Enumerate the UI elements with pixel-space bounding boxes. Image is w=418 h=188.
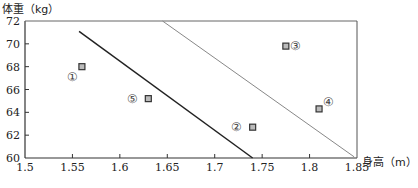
y-tick-label: 64 [6,106,20,119]
trend-lines [79,21,354,158]
y-tick-label: 68 [6,61,20,74]
data-point-label: ⑤ [127,92,138,106]
data-point-label: ② [231,120,242,134]
x-axis: 1.51.551.61.651.71.751.81.85 [16,154,369,174]
x-tick-label: 1.55 [60,161,85,174]
data-point [316,106,322,112]
y-tick-label: 72 [6,15,20,28]
y-tick-label: 70 [6,38,20,51]
data-point [145,96,151,102]
y-axis-title: 体重（kg） [2,2,59,16]
dark-line [79,31,253,158]
y-tick-label: 62 [6,129,20,142]
x-tick-label: 1.7 [206,161,224,174]
x-tick-label: 1.8 [301,161,319,174]
x-tick-label: 1.65 [155,161,180,174]
gray-line [163,21,355,157]
data-point-label: ④ [323,95,334,109]
data-point [250,124,256,130]
data-point [283,43,289,49]
data-point-label: ③ [290,39,301,53]
data-point-label: ① [67,70,78,84]
data-point [79,64,85,70]
x-tick-label: 1.6 [111,161,129,174]
y-tick-label: 66 [6,84,20,97]
x-tick-label: 1.5 [16,161,34,174]
x-axis-title: 身高（m） [362,155,417,169]
scatter-chart: 60626466687072 1.51.551.61.651.71.751.81… [0,0,418,188]
x-tick-label: 1.75 [250,161,275,174]
